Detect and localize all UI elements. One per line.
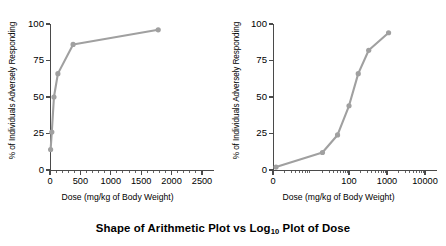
- series-line-right: [276, 33, 389, 167]
- y-tick-label-right-1: 25: [233, 127, 267, 138]
- data-point-left-4: [71, 42, 76, 47]
- figure-title-subscript: 10: [271, 227, 280, 236]
- y-tick-label-left-4: 100: [10, 18, 44, 29]
- data-series-left: [50, 24, 214, 174]
- y-tick-label-left-3: 75: [10, 54, 44, 65]
- figure-title-after: Plot of Dose: [279, 222, 350, 234]
- data-point-left-1: [49, 129, 54, 134]
- figure-container: % of Individuals Adversely Responding Do…: [0, 0, 446, 246]
- x-axis-label-right: Dose (mg/kg of Body Weight): [227, 192, 446, 202]
- plot-area-left: 025507510005001000150020002500: [50, 24, 202, 170]
- data-point-left-2: [51, 94, 56, 99]
- data-point-right-1: [320, 150, 325, 155]
- figure-title: Shape of Arithmetic Plot vs Log10 Plot o…: [0, 222, 446, 234]
- y-tick-label-left-1: 25: [10, 127, 44, 138]
- y-tick-label-right-2: 50: [233, 91, 267, 102]
- y-tick-label-right-3: 75: [233, 54, 267, 65]
- y-tick-label-left-0: 0: [10, 164, 44, 175]
- data-point-right-3: [346, 103, 351, 108]
- y-tick-label-right-4: 100: [233, 18, 267, 29]
- figure-title-before: Shape of Arithmetic Plot vs Log: [96, 222, 271, 234]
- data-series-right: [273, 24, 437, 174]
- plot-area-right: 02550751000100100010000: [273, 24, 425, 170]
- chart-panel-log10: % of Individuals Adversely Responding Do…: [223, 0, 446, 212]
- data-point-left-0: [48, 147, 53, 152]
- data-point-right-2: [335, 132, 340, 137]
- data-point-left-5: [156, 27, 161, 32]
- y-tick-label-left-2: 50: [10, 91, 44, 102]
- data-point-right-0: [273, 164, 278, 169]
- data-point-right-6: [386, 30, 391, 35]
- x-tick-label-right-3: 10000: [403, 176, 446, 186]
- y-tick-label-right-0: 0: [233, 164, 267, 175]
- chart-panel-arithmetic: % of Individuals Adversely Responding Do…: [0, 0, 223, 212]
- data-point-left-3: [55, 71, 60, 76]
- data-point-right-4: [356, 71, 361, 76]
- data-point-right-5: [366, 48, 371, 53]
- x-axis-label-left: Dose (mg/kg of Body Weight): [6, 192, 229, 202]
- x-tick-label-left-5: 2500: [180, 176, 224, 186]
- series-line-left: [51, 30, 159, 150]
- x-tick-label-right-0: 0: [251, 176, 295, 186]
